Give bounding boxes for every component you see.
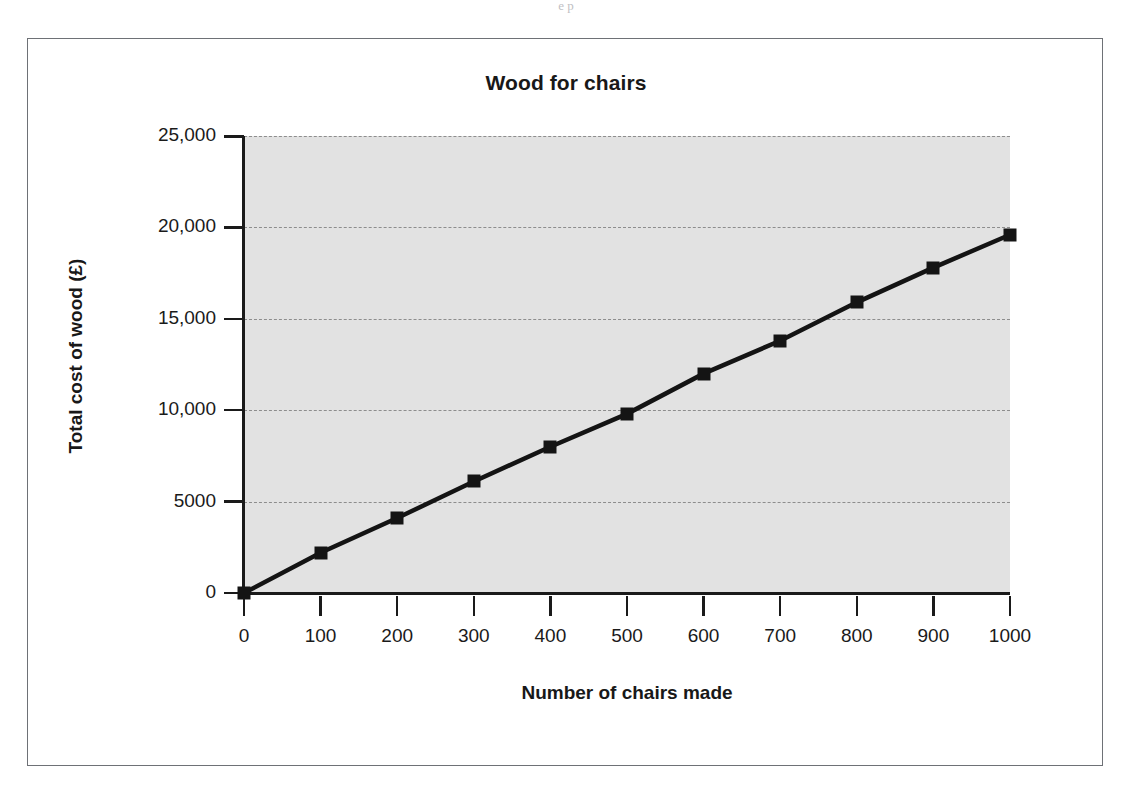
- x-axis-tick: [856, 596, 859, 616]
- x-axis-tick-label: 800: [822, 625, 892, 647]
- y-axis-tick-label: 15,000: [44, 307, 216, 329]
- data-point-marker: [391, 512, 404, 525]
- data-point-marker: [238, 587, 251, 600]
- data-point-marker: [467, 475, 480, 488]
- x-axis-tick: [319, 596, 322, 616]
- y-axis-tick: [224, 135, 242, 138]
- x-axis-title: Number of chairs made: [244, 682, 1010, 704]
- x-axis-tick: [779, 596, 782, 616]
- chart-title: Wood for chairs: [28, 71, 1104, 95]
- y-axis-tick: [224, 318, 242, 321]
- y-axis-tick: [224, 226, 242, 229]
- data-point-marker: [850, 296, 863, 309]
- x-axis-tick-label: 300: [439, 625, 509, 647]
- data-point-marker: [544, 440, 557, 453]
- y-axis-tick-label: 5000: [44, 490, 216, 512]
- data-point-marker: [774, 334, 787, 347]
- chart-figure-frame: Wood for chairs Number of chairs made To…: [27, 38, 1103, 766]
- x-axis-tick-label: 600: [669, 625, 739, 647]
- y-axis-tick-label: 0: [44, 581, 216, 603]
- x-axis-tick: [473, 596, 476, 616]
- x-axis-tick-label: 100: [286, 625, 356, 647]
- data-point-marker: [314, 546, 327, 559]
- x-axis-tick-label: 700: [745, 625, 815, 647]
- x-axis-tick-label: 1000: [975, 625, 1045, 647]
- x-axis-tick-label: 500: [592, 625, 662, 647]
- x-axis-tick: [932, 596, 935, 616]
- y-axis-tick-label: 10,000: [44, 398, 216, 420]
- x-axis-tick: [549, 596, 552, 616]
- y-axis-tick-label: 20,000: [44, 215, 216, 237]
- x-axis-tick-label: 900: [898, 625, 968, 647]
- data-point-marker: [927, 261, 940, 274]
- x-axis-tick-label: 0: [209, 625, 279, 647]
- y-axis-tick: [224, 500, 242, 503]
- y-axis-tick: [224, 409, 242, 412]
- data-point-marker: [697, 367, 710, 380]
- data-series-line: [244, 136, 1010, 593]
- x-axis-tick: [396, 596, 399, 616]
- x-axis-tick: [1009, 596, 1012, 616]
- data-point-marker: [1004, 228, 1017, 241]
- y-axis-tick-label: 25,000: [44, 124, 216, 146]
- data-point-marker: [621, 407, 634, 420]
- x-axis-tick: [702, 596, 705, 616]
- page-top-bleed-text: e p: [0, 0, 1132, 14]
- x-axis-tick-label: 200: [362, 625, 432, 647]
- x-axis-tick: [626, 596, 629, 616]
- x-axis-tick-label: 400: [515, 625, 585, 647]
